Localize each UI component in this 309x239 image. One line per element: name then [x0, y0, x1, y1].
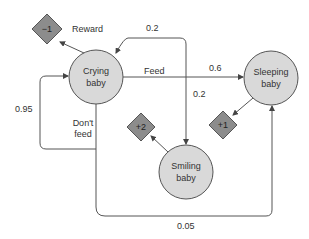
state-label-crying-line1: Crying: [69, 65, 123, 77]
state-label-sleeping-line1: Sleeping: [244, 66, 298, 78]
reward-arrow-sleeping: [233, 98, 253, 115]
state-label-sleeping-line2: baby: [244, 78, 298, 90]
reward-arrow-crying: [60, 42, 84, 53]
reward-value-sleeping: +1: [211, 120, 235, 130]
prob-label-feed-smiling: 0.2: [193, 89, 206, 100]
action-label-feed: Feed: [144, 66, 165, 77]
state-label-crying-line2: baby: [69, 77, 123, 89]
reward-value-crying: −1: [35, 24, 59, 34]
state-label-smiling-line1: Smiling: [159, 160, 213, 172]
state-label-sleeping: Sleeping baby: [244, 66, 298, 90]
action-label-dont-feed-line1: Don't: [69, 118, 97, 129]
reward-label: Reward: [72, 24, 103, 35]
prob-label-dontfeed-sleeping: 0.05: [177, 221, 195, 232]
action-label-dont-feed-line2: feed: [69, 129, 97, 140]
prob-label-feed-sleeping: 0.6: [209, 63, 222, 74]
prob-label-dontfeed-crying: 0.95: [15, 104, 33, 115]
state-label-crying: Crying baby: [69, 65, 123, 89]
mdp-diagram-canvas: [0, 0, 309, 239]
state-label-smiling: Smiling baby: [159, 160, 213, 184]
reward-value-smiling: +2: [129, 122, 153, 132]
reward-arrow-smiling: [151, 136, 168, 152]
state-label-smiling-line2: baby: [159, 172, 213, 184]
prob-label-feed-crying: 0.2: [146, 23, 159, 34]
action-label-dont-feed: Don't feed: [69, 118, 97, 140]
